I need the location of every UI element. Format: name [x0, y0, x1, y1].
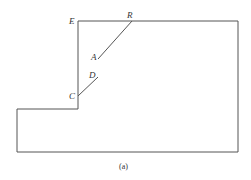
- label-r: R: [126, 10, 133, 20]
- slope-outline: [17, 21, 238, 152]
- label-e: E: [68, 16, 75, 26]
- label-a: A: [90, 52, 97, 62]
- figure-caption: (a): [119, 162, 128, 171]
- label-d: D: [88, 70, 96, 80]
- label-c: C: [69, 91, 76, 101]
- crack-line-ra: [98, 21, 132, 59]
- slope-diagram: E R A D C (a): [0, 0, 251, 180]
